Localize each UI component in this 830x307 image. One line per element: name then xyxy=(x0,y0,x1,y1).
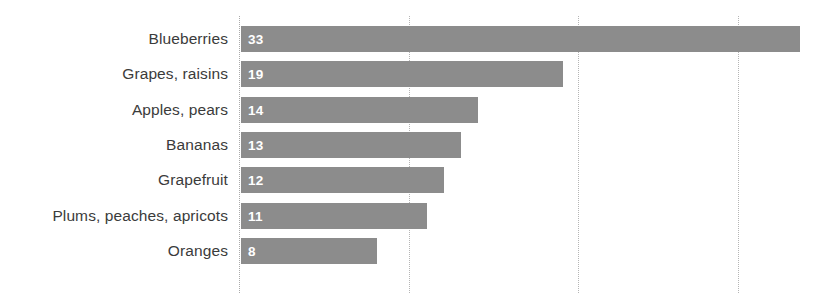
bar: 13 xyxy=(241,132,461,158)
category-label: Grapes, raisins xyxy=(0,61,228,87)
bar-value-label: 19 xyxy=(248,61,263,87)
bar: 11 xyxy=(241,203,427,229)
bar-row: Blueberries33 xyxy=(0,26,830,52)
category-label: Apples, pears xyxy=(0,97,228,123)
category-label: Plums, peaches, apricots xyxy=(0,203,228,229)
bar: 33 xyxy=(241,26,800,52)
bar-value-label: 14 xyxy=(248,97,263,123)
bar: 12 xyxy=(241,167,444,193)
bar: 19 xyxy=(241,61,563,87)
bar-row: Oranges8 xyxy=(0,238,830,264)
bar-row: Apples, pears14 xyxy=(0,97,830,123)
bar-row: Plums, peaches, apricots11 xyxy=(0,203,830,229)
bar-chart: Blueberries33Grapes, raisins19Apples, pe… xyxy=(0,0,830,307)
bar-value-label: 12 xyxy=(248,167,263,193)
bar-value-label: 33 xyxy=(248,26,263,52)
bar-row: Bananas13 xyxy=(0,132,830,158)
bar: 8 xyxy=(241,238,377,264)
bar-row: Grapes, raisins19 xyxy=(0,61,830,87)
bar-row: Grapefruit12 xyxy=(0,167,830,193)
category-label: Grapefruit xyxy=(0,167,228,193)
category-label: Oranges xyxy=(0,238,228,264)
bar-rows: Blueberries33Grapes, raisins19Apples, pe… xyxy=(0,0,830,307)
category-label: Bananas xyxy=(0,132,228,158)
bar-value-label: 8 xyxy=(248,238,256,264)
bar-value-label: 13 xyxy=(248,132,263,158)
bar: 14 xyxy=(241,97,478,123)
category-label: Blueberries xyxy=(0,26,228,52)
bar-value-label: 11 xyxy=(248,203,263,229)
